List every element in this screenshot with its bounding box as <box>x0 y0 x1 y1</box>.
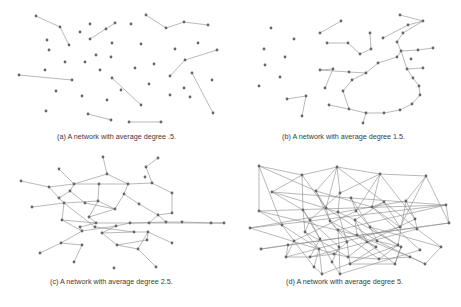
edge <box>319 249 322 274</box>
node <box>301 115 304 118</box>
node <box>81 230 84 233</box>
edge <box>372 174 380 207</box>
edge <box>102 232 134 233</box>
edge <box>337 167 340 193</box>
node <box>285 256 288 259</box>
node <box>287 244 290 247</box>
node <box>127 183 130 186</box>
node <box>293 240 296 243</box>
edge <box>146 158 158 167</box>
node <box>362 122 365 125</box>
node <box>354 219 357 222</box>
edge <box>117 245 138 249</box>
node <box>270 27 273 30</box>
node <box>48 186 51 189</box>
edge <box>413 78 419 86</box>
node <box>73 261 76 264</box>
edge <box>379 245 398 259</box>
node <box>382 37 385 40</box>
edge <box>370 33 371 49</box>
edge <box>272 175 302 192</box>
node <box>249 227 252 230</box>
edge <box>117 240 147 245</box>
caption-d: (d) A network with average degree 5. <box>286 277 403 286</box>
node <box>333 253 336 256</box>
node <box>81 95 84 98</box>
node <box>340 20 343 23</box>
caption-a: (a) A network with average degree .5. <box>57 132 176 141</box>
edge <box>367 219 415 242</box>
node <box>144 176 147 179</box>
node <box>106 173 109 176</box>
edge <box>406 176 426 201</box>
node <box>305 95 308 98</box>
node <box>418 85 421 88</box>
edge <box>314 267 322 274</box>
node <box>342 90 345 93</box>
node <box>111 42 114 45</box>
node <box>210 222 213 225</box>
node <box>146 239 149 242</box>
edge <box>367 242 395 264</box>
node <box>377 62 380 65</box>
edge <box>384 110 400 113</box>
node <box>58 168 61 171</box>
node <box>98 183 101 186</box>
edge <box>185 50 217 60</box>
node <box>63 202 66 205</box>
node <box>349 263 352 266</box>
node <box>348 108 351 111</box>
node <box>328 104 331 107</box>
node <box>302 209 305 212</box>
node <box>412 77 415 80</box>
node <box>422 67 425 70</box>
node <box>260 248 263 251</box>
edge <box>314 249 319 267</box>
edge <box>325 69 333 88</box>
caption-b: (b) A network with average degree 1.5. <box>282 132 405 141</box>
node <box>379 173 382 176</box>
edge <box>103 157 107 174</box>
node <box>174 48 177 51</box>
edge <box>88 114 111 120</box>
node <box>113 267 116 270</box>
node <box>369 32 372 35</box>
panel-c: (c) A network with average degree 2.5. <box>0 150 230 307</box>
edge <box>350 247 376 264</box>
edge <box>398 201 406 245</box>
edge <box>259 166 302 175</box>
node <box>79 226 82 229</box>
panel-b: (b) A network with average degree 1.5. <box>230 0 461 150</box>
node <box>324 87 327 90</box>
edge <box>347 242 350 264</box>
network-graph-b <box>230 0 461 150</box>
node <box>189 96 192 99</box>
node <box>18 74 21 77</box>
node <box>68 44 71 47</box>
node <box>326 42 329 45</box>
edge <box>138 249 156 267</box>
node <box>279 76 282 79</box>
edge <box>146 15 166 28</box>
node <box>416 228 419 231</box>
node <box>169 94 172 97</box>
edge <box>407 69 413 78</box>
node <box>301 174 304 177</box>
node <box>69 190 72 193</box>
node <box>351 79 354 82</box>
node <box>264 64 267 67</box>
edge <box>158 213 172 215</box>
edge <box>70 191 85 203</box>
node <box>64 61 67 64</box>
node <box>87 113 90 116</box>
edge <box>261 245 288 249</box>
edge <box>98 184 99 201</box>
node <box>184 59 187 62</box>
node <box>371 206 374 209</box>
node <box>183 21 186 24</box>
node <box>147 231 150 234</box>
node <box>197 42 200 45</box>
panel-d: (d) A network with average degree 5. <box>230 150 461 307</box>
node <box>35 15 38 18</box>
node <box>359 53 362 56</box>
